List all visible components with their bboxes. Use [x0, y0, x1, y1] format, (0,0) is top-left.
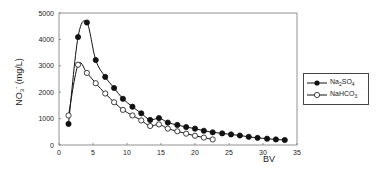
open-circle-marker-icon — [165, 126, 170, 131]
open-circle-marker-icon — [130, 113, 135, 118]
open-circle-marker-icon — [93, 81, 98, 86]
series-layer — [66, 20, 287, 143]
open-circle-marker-icon — [175, 129, 180, 134]
legend: Na2SO4 NaHCO3 — [303, 73, 369, 105]
filled-circle-marker-icon — [228, 132, 233, 137]
filled-circle-marker-icon — [237, 133, 242, 138]
filled-circle-marker-icon — [103, 74, 108, 79]
x-tick-label: 0 — [57, 149, 61, 156]
filled-circle-marker-icon — [66, 121, 71, 126]
filled-circle-marker-icon — [93, 57, 98, 62]
y-tick-label: 4000 — [38, 36, 54, 43]
y-tick-label: 1000 — [38, 115, 54, 122]
open-circle-marker-icon — [307, 91, 327, 99]
open-circle-marker-icon — [66, 113, 71, 118]
filled-circle-marker-icon — [255, 135, 260, 140]
filled-circle-marker-icon — [264, 136, 269, 141]
series-na2so4 — [66, 20, 287, 143]
open-circle-marker-icon — [192, 133, 197, 138]
filled-circle-marker-icon — [184, 124, 189, 129]
filled-circle-marker-icon — [156, 115, 161, 120]
open-circle-marker-icon — [148, 123, 153, 128]
x-tick-label: 5 — [91, 149, 95, 156]
filled-circle-marker-icon — [75, 34, 80, 39]
open-circle-marker-icon — [201, 135, 206, 140]
x-tick-label: 25 — [225, 149, 233, 156]
filled-circle-marker-icon — [120, 96, 125, 101]
svg-text:NO3- (mg/L): NO3- (mg/L) — [13, 58, 25, 105]
filled-circle-marker-icon — [201, 128, 206, 133]
open-circle-marker-icon — [75, 62, 80, 67]
x-tick-label: 10 — [123, 149, 131, 156]
legend-label: Na2SO4 — [330, 78, 355, 87]
open-circle-marker-icon — [103, 91, 108, 96]
filled-circle-marker-icon — [282, 137, 287, 142]
x-tick-label: 15 — [157, 149, 165, 156]
filled-circle-marker-icon — [175, 122, 180, 127]
open-circle-marker-icon — [84, 70, 89, 75]
open-circle-marker-icon — [184, 131, 189, 136]
filled-circle-marker-icon — [111, 85, 116, 90]
y-tick-label: 0 — [50, 142, 54, 149]
legend-label: NaHCO3 — [330, 90, 357, 99]
filled-circle-marker-icon — [246, 134, 251, 139]
legend-item-nahco3: NaHCO3 — [307, 89, 357, 101]
open-circle-marker-icon — [156, 122, 161, 127]
y-tick-label: 3000 — [38, 62, 54, 69]
open-circle-marker-icon — [139, 118, 144, 123]
x-tick-label: 35 — [293, 149, 301, 156]
filled-circle-marker-icon — [210, 130, 215, 135]
filled-circle-marker-icon — [148, 117, 153, 122]
filled-circle-marker-icon — [165, 120, 170, 125]
axes: 05101520253035010002000300040005000 — [38, 10, 301, 157]
x-axis-label: BV — [263, 154, 275, 164]
filled-circle-marker-icon — [84, 20, 89, 25]
y-tick-label: 2000 — [38, 89, 54, 96]
x-tick-label: 20 — [191, 149, 199, 156]
filled-circle-marker-icon — [192, 126, 197, 131]
open-circle-marker-icon — [120, 107, 125, 112]
y-tick-label: 5000 — [38, 10, 54, 17]
filled-circle-marker-icon — [220, 131, 225, 136]
y-axis-label: NO3- (mg/L) — [13, 58, 25, 105]
legend-item-na2so4: Na2SO4 — [307, 77, 355, 89]
filled-circle-marker-icon — [139, 111, 144, 116]
open-circle-marker-icon — [111, 100, 116, 105]
filled-circle-marker-icon — [130, 104, 135, 109]
open-circle-marker-icon — [210, 137, 215, 142]
filled-circle-marker-icon — [307, 79, 327, 87]
filled-circle-marker-icon — [273, 137, 278, 142]
